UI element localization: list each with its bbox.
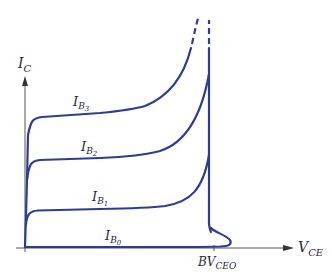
curve-ib0 <box>25 228 231 247</box>
label-ib0: IB0 <box>104 228 122 247</box>
label-ib3: IB3 <box>72 94 90 113</box>
curve-ib2 <box>27 74 209 180</box>
curve-ib3-dashed <box>192 18 198 44</box>
x-axis-arrow-icon <box>283 245 294 251</box>
label-ib1: IB1 <box>91 189 108 208</box>
curve-ib1 <box>26 155 209 224</box>
transistor-characteristics-diagram: IC VCE BVCEO IB3 IB2 IB1 IB0 <box>0 0 332 277</box>
y-axis-label: IC <box>17 55 32 74</box>
curve-ib3 <box>28 48 191 135</box>
y-axis-arrow-icon <box>22 76 28 86</box>
label-ib2: IB2 <box>80 139 98 158</box>
x-axis-label: VCE <box>298 239 324 258</box>
breakdown-label: BVCEO <box>197 255 237 271</box>
